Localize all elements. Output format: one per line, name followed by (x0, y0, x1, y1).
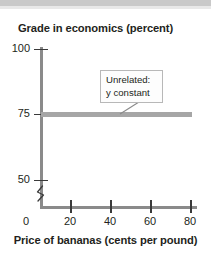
y-tick-label-75: 75 (0, 107, 30, 119)
y-tick-100 (34, 49, 48, 51)
x-tick-label-40: 40 (95, 215, 125, 227)
data-series-line (41, 112, 192, 117)
x-axis-label: Price of bananas (cents per pound) (0, 234, 211, 246)
x-tick-label-0: 0 (18, 215, 34, 227)
x-tick-label-80: 80 (175, 215, 205, 227)
x-tick-60 (150, 200, 152, 213)
annotation-line-2: y constant (106, 87, 157, 100)
x-tick-80 (190, 200, 192, 213)
x-axis-line (40, 206, 197, 209)
chart-title: Grade in economics (percent) (18, 22, 173, 34)
y-tick-label-100: 100 (0, 42, 30, 54)
x-tick-label-20: 20 (55, 215, 85, 227)
annotation-callout: Unrelated: y constant (100, 70, 163, 103)
chart-figure: Grade in economics (percent) 100 75 50 0… (0, 0, 211, 255)
y-tick-50 (34, 180, 48, 182)
x-tick-label-60: 60 (135, 215, 165, 227)
y-tick-label-50: 50 (0, 173, 30, 185)
top-edge-strip-fade (0, 6, 211, 9)
x-tick-20 (70, 200, 72, 213)
annotation-line-1: Unrelated: (106, 74, 157, 87)
axis-break-icon (33, 184, 51, 206)
x-tick-40 (110, 200, 112, 213)
